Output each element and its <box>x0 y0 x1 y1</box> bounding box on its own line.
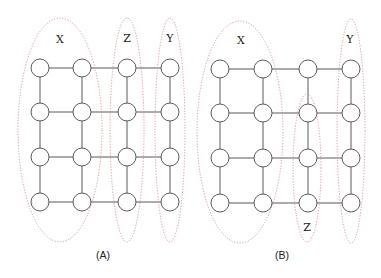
panel-b-node-r2-c3 <box>342 149 360 167</box>
panel-b-node-r1-c0 <box>211 104 229 122</box>
panel-a-group-z-label: Z <box>123 32 131 45</box>
panel-a-group-x-label: X <box>56 33 64 46</box>
panel-b-node-r3-c2 <box>299 194 317 212</box>
panel-b-caption: (B) <box>275 249 289 261</box>
panel-a-node-r0-c2 <box>118 59 136 77</box>
panel-b-node-r0-c1 <box>254 60 272 78</box>
panel-a-node-r0-c0 <box>31 59 49 77</box>
panel-b-group-y-label: Y <box>345 33 354 46</box>
panel-a: X Z Y (A) <box>18 18 185 261</box>
panel-a-edges <box>40 68 170 202</box>
panel-a-group-x-ellipse <box>18 18 102 242</box>
panel-a-node-r0-c1 <box>73 59 91 77</box>
panel-a-node-r3-c3 <box>161 193 179 211</box>
panel-b: X Z Y (B) <box>197 19 365 261</box>
panel-b-node-r0-c2 <box>299 60 317 78</box>
panel-b-nodes <box>211 60 360 212</box>
panel-b-node-r3-c3 <box>342 194 360 212</box>
panel-a-node-r2-c0 <box>31 148 49 166</box>
panel-b-node-r0-c0 <box>211 60 229 78</box>
panel-a-node-r1-c1 <box>73 103 91 121</box>
panel-a-node-r1-c0 <box>31 103 49 121</box>
panel-a-caption: (A) <box>96 249 110 261</box>
panel-a-node-r2-c2 <box>118 148 136 166</box>
panel-b-group-x-ellipse <box>197 21 283 243</box>
grid-partition-figure: X Z Y (A) X Z Y (B) <box>0 0 381 278</box>
panel-a-node-r1-c3 <box>161 103 179 121</box>
panel-b-node-r3-c0 <box>211 194 229 212</box>
panel-b-group-x-label: X <box>237 34 245 47</box>
panel-b-node-r3-c1 <box>254 194 272 212</box>
panel-b-node-r0-c3 <box>342 60 360 78</box>
panel-b-node-r1-c3 <box>342 104 360 122</box>
panel-a-node-r1-c2 <box>118 103 136 121</box>
panel-b-node-r2-c1 <box>254 149 272 167</box>
panel-b-node-r2-c0 <box>211 149 229 167</box>
panel-b-node-r1-c1 <box>254 104 272 122</box>
panel-a-node-r3-c1 <box>73 193 91 211</box>
panel-a-node-r3-c2 <box>118 193 136 211</box>
panel-a-node-r0-c3 <box>161 59 179 77</box>
panel-a-node-r2-c3 <box>161 148 179 166</box>
panel-b-node-r1-c2 <box>299 104 317 122</box>
panel-a-group-y-label: Y <box>165 32 174 45</box>
panel-b-group-z-label: Z <box>303 221 311 234</box>
panel-a-node-r3-c0 <box>31 193 49 211</box>
panel-b-edges <box>220 69 351 203</box>
panel-b-node-r2-c2 <box>299 149 317 167</box>
panel-a-node-r2-c1 <box>73 148 91 166</box>
